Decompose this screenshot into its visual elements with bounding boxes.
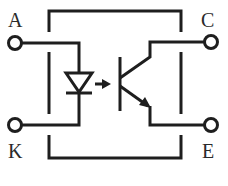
package-outline <box>49 11 181 158</box>
diode-icon <box>66 73 92 93</box>
emitter-wire <box>150 106 204 125</box>
schematic-svg: A K C E <box>0 0 228 186</box>
transistor-npn-icon <box>120 42 204 125</box>
terminal-k-pin[interactable] <box>9 119 22 132</box>
terminal-c-label: C <box>201 9 214 31</box>
optocoupler-diagram: A K C E <box>0 0 228 186</box>
collector-wire <box>120 42 204 78</box>
terminal-k-label: K <box>8 140 23 162</box>
terminal-a-pin[interactable] <box>9 37 22 50</box>
terminal-e-pin[interactable] <box>205 119 218 132</box>
arrow-right-icon <box>95 79 111 89</box>
terminal-a-label: A <box>8 9 23 31</box>
terminal-c-pin[interactable] <box>205 36 218 49</box>
terminal-e-label: E <box>202 140 214 162</box>
